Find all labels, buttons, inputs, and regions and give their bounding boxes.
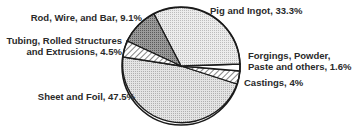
pie-chart: Pig and Ingot, 33.3% Forgings, Powder, P… <box>0 0 356 130</box>
label-pig-and-ingot: Pig and Ingot, 33.3% <box>210 5 302 16</box>
label-sheet-and-foil: Sheet and Foil, 47.5% <box>38 91 135 102</box>
label-forgings-line1: Forgings, Powder, <box>248 50 330 61</box>
label-castings: Castings, 4% <box>244 77 303 88</box>
label-rod-wire-bar: Rod, Wire, and Bar, 9.1% <box>31 12 142 23</box>
label-tubing-line2: and Extrusions, 4.5% <box>26 46 122 57</box>
label-tubing-line1: Tubing, Rolled Structures <box>7 35 122 46</box>
label-forgings-line2: Paste and others, 1.6% <box>248 61 351 72</box>
